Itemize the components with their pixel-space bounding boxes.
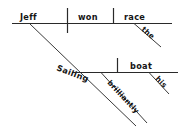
- word-verb: won: [78, 12, 98, 22]
- word-adverb: brilliantly: [106, 78, 142, 115]
- word-object: race: [124, 12, 145, 22]
- word-article: the: [140, 25, 157, 41]
- sentence-diagram: Jeff won race the Sailing boat his brill…: [0, 0, 185, 131]
- word-gerund-object: boat: [130, 61, 152, 71]
- word-subject: Jeff: [19, 12, 37, 22]
- word-possessive: his: [154, 74, 170, 90]
- sentence-diagram-canvas: Jeff won race the Sailing boat his brill…: [0, 0, 185, 131]
